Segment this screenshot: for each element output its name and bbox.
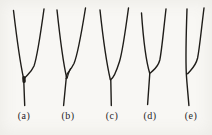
diagram-c-left-branch xyxy=(100,10,110,80)
diagram-c-right-branch xyxy=(111,8,129,80)
diagram-b-right-branch xyxy=(66,8,85,79)
diagram-e-curves xyxy=(186,8,204,106)
diagram-b-stem xyxy=(64,79,67,106)
diagram-a-right-branch xyxy=(24,9,44,79)
diagram-a-left-branch xyxy=(14,11,24,79)
diagram-d-stem xyxy=(148,73,150,104)
diagram-b-curves xyxy=(57,8,86,106)
diagram-b-label: (b) xyxy=(61,110,74,122)
diagram-c-stem xyxy=(111,80,112,105)
diagram-e-label: (e) xyxy=(185,110,198,122)
diagram-a-curves xyxy=(14,9,45,106)
diagram-c-curves xyxy=(100,8,129,106)
branching-diagrams-figure: (a) (b) (c) (d) (e) xyxy=(0,0,212,135)
diagram-d-curves xyxy=(142,9,167,105)
diagram-c-label: (c) xyxy=(106,110,119,122)
diagram-d-right-branch xyxy=(151,9,166,73)
diagram-e-main-line xyxy=(186,9,189,106)
diagram-e-right-branch xyxy=(188,8,204,74)
diagram-d-label: (d) xyxy=(143,110,156,122)
diagram-a-label: (a) xyxy=(18,110,31,122)
diagram-b-left-branch xyxy=(57,10,67,77)
diagram-d-left-branch xyxy=(142,13,150,73)
